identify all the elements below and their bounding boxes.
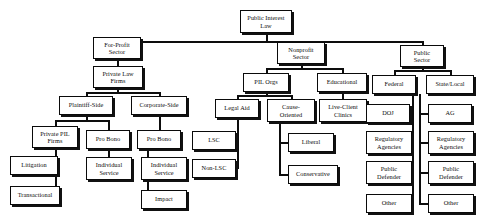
connector-nonlsc-link: [236, 168, 238, 170]
node-indiv_c: Individual Service: [141, 157, 187, 180]
connector-public-bus: [394, 70, 450, 72]
node-impact: Impact: [141, 190, 187, 209]
node-root: Public Interest Law: [240, 10, 292, 33]
connector-privatelaw-bus: [86, 92, 159, 94]
node-statelocal: State/Local: [426, 75, 474, 94]
connector-plaintiff-bus: [55, 120, 108, 122]
node-liveclient: Live-Client Clinics: [319, 99, 367, 122]
node-federal: Federal: [372, 75, 416, 94]
node-ag: AG: [428, 104, 472, 123]
node-indiv_p: Individual Service: [86, 157, 132, 180]
node-reg_fed: Regulatory Agencies: [366, 131, 412, 154]
connector-nonprofit-bus: [266, 68, 342, 70]
connector-statelocal-trunk: [419, 94, 421, 204]
node-nonlsc: Non-LSC: [192, 159, 236, 178]
node-litigation: Litigation: [10, 156, 58, 175]
node-privatepil: Private PIL Firms: [32, 126, 78, 148]
connector-legalaid-trunk: [237, 118, 239, 169]
node-lsc: LSC: [192, 131, 236, 150]
connector-root-stem: [266, 33, 268, 41]
connector-root-bus: [117, 41, 422, 43]
node-doj: DOJ: [366, 104, 410, 123]
connector-federal-trunk: [412, 94, 414, 204]
node-probono_p: Pro Bono: [86, 130, 130, 149]
node-privatelaw: Private Law Firms: [93, 66, 143, 88]
connector-forprofit-stem: [117, 59, 119, 66]
connector-lsc-link: [236, 140, 238, 142]
node-forprofit: For-Profit Sector: [93, 37, 141, 59]
node-pd_st: Public Defender: [428, 161, 474, 184]
node-corporate: Corporate-Side: [131, 96, 187, 115]
node-legalaid: Legal Aid: [215, 99, 259, 118]
node-educational: Educational: [317, 73, 367, 92]
node-probono_c: Pro Bono: [137, 130, 181, 149]
node-transactional: Transactional: [10, 186, 60, 205]
node-pd_fed: Public Defender: [366, 161, 412, 184]
connector-cause-trunk: [279, 122, 281, 175]
node-pilorgs: PIL Orgs: [243, 73, 289, 92]
node-nonprofit: Nonprofit Sector: [277, 42, 325, 64]
organizational-chart: Public Interest LawFor-Profit SectorNonp…: [0, 0, 480, 223]
node-other_st: Other: [428, 194, 474, 213]
node-liberal: Liberal: [288, 133, 334, 152]
node-plaintiff: Plaintiff-Side: [59, 96, 113, 115]
connector-pilorgs-bus: [237, 95, 291, 97]
node-conservative: Conservative: [288, 165, 338, 184]
node-reg_st: Regulatory Agencies: [428, 131, 474, 154]
node-public: Public Sector: [400, 45, 444, 67]
node-other_fed: Other: [366, 194, 412, 213]
node-cause: Cause- Oriented: [267, 99, 315, 122]
